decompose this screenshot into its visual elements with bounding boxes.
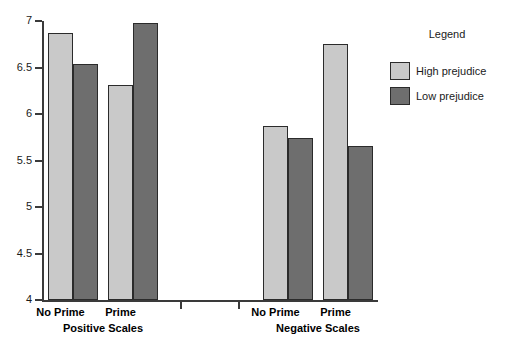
y-axis-tick xyxy=(35,206,42,208)
y-axis-line xyxy=(42,21,44,301)
y-axis-tick xyxy=(35,160,42,162)
y-axis-tick xyxy=(35,253,42,255)
bar xyxy=(48,33,73,300)
x-axis-category-label: Prime xyxy=(286,306,386,318)
bar xyxy=(133,23,158,300)
bar xyxy=(348,146,373,300)
bar xyxy=(73,64,98,300)
legend-swatch xyxy=(390,87,410,105)
legend-label: High prejudice xyxy=(416,65,486,77)
y-axis-tick-label: 6.5 xyxy=(0,61,32,73)
bar-chart-plot: 44.555.566.57 No PrimePrimeNo PrimePrime… xyxy=(0,0,510,351)
y-axis-tick-label: 6 xyxy=(0,107,32,119)
x-axis-group-label: Negative Scales xyxy=(248,322,388,334)
x-axis-separator-tick xyxy=(180,302,182,309)
x-axis-category-label: Prime xyxy=(71,306,171,318)
y-axis-tick-label: 5.5 xyxy=(0,154,32,166)
y-axis-tick xyxy=(35,113,42,115)
bar xyxy=(323,44,348,300)
y-axis-tick xyxy=(35,299,42,301)
x-axis-line xyxy=(42,300,378,302)
bar xyxy=(263,126,288,300)
legend-title: Legend xyxy=(388,28,506,40)
y-axis-tick-label: 4 xyxy=(0,293,32,305)
bar xyxy=(288,138,313,300)
x-axis-group-label: Positive Scales xyxy=(33,322,173,334)
legend-label: Low prejudice xyxy=(416,90,484,102)
legend-swatch xyxy=(390,62,410,80)
y-axis-tick xyxy=(35,67,42,69)
y-axis-tick-label: 5 xyxy=(0,200,32,212)
bar xyxy=(108,85,133,300)
y-axis-tick-label: 4.5 xyxy=(0,247,32,259)
chart-screenshot: 44.555.566.57 No PrimePrimeNo PrimePrime… xyxy=(0,0,510,351)
y-axis-tick xyxy=(35,20,42,22)
y-axis-tick-label: 7 xyxy=(0,14,32,26)
